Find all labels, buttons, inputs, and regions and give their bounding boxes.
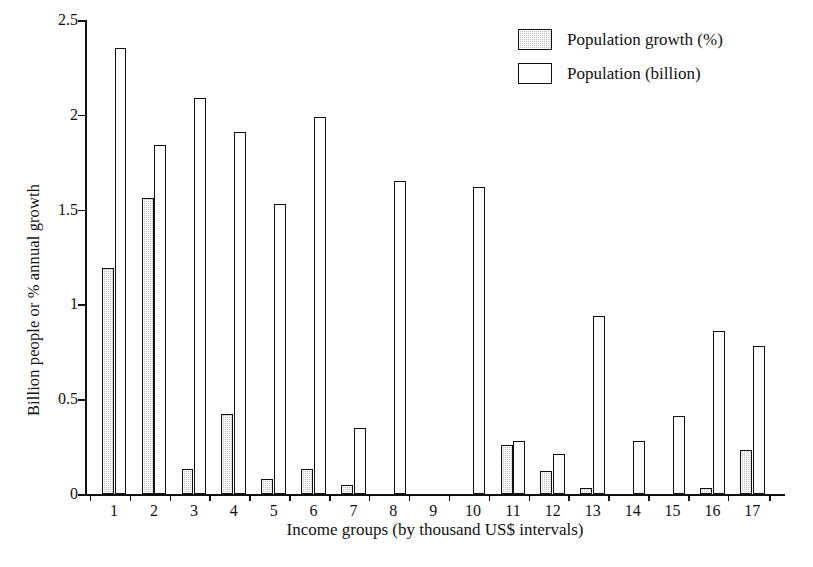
y-tick-label: 0.5 <box>32 391 78 407</box>
bar-population <box>593 316 605 494</box>
x-tick-mark <box>170 494 172 501</box>
x-tick-label: 2 <box>134 503 174 519</box>
x-tick-mark <box>369 494 371 501</box>
bar-population-growth <box>182 469 194 494</box>
bar-population <box>713 331 725 494</box>
bar-population <box>394 181 406 494</box>
x-tick-mark <box>529 494 531 501</box>
bar-population <box>314 117 326 494</box>
x-tick-mark <box>449 494 451 501</box>
legend-item[interactable]: Population growth (%) <box>518 22 798 56</box>
population-income-bar-chart: Billion people or % annual growth 00.511… <box>0 0 813 567</box>
x-tick-label: 14 <box>613 503 653 519</box>
x-tick-mark <box>608 494 610 501</box>
bar-population <box>234 132 246 494</box>
x-tick-label: 17 <box>732 503 772 519</box>
bar-population <box>194 98 206 494</box>
bar-population <box>553 454 565 494</box>
bar-population-growth <box>540 471 552 494</box>
bar-population <box>274 204 286 494</box>
x-tick-mark <box>209 494 211 501</box>
legend-item[interactable]: Population (billion) <box>518 56 798 90</box>
bar-population <box>513 441 525 494</box>
legend-swatch-population <box>518 63 552 84</box>
x-tick-label: 13 <box>573 503 613 519</box>
bar-population-growth <box>102 268 114 494</box>
legend-label: Population growth (%) <box>567 31 723 48</box>
x-tick-mark <box>489 494 491 501</box>
x-tick-label: 4 <box>214 503 254 519</box>
bar-population <box>354 428 366 494</box>
y-tick-mark <box>78 399 85 401</box>
x-tick-label: 12 <box>533 503 573 519</box>
bar-population <box>753 346 765 494</box>
x-tick-label: 10 <box>453 503 493 519</box>
x-tick-mark <box>769 494 771 501</box>
x-tick-label: 1 <box>94 503 134 519</box>
bar-population <box>633 441 645 494</box>
bar-population-growth <box>580 488 592 494</box>
y-tick-label: 0 <box>32 486 78 502</box>
x-tick-mark <box>249 494 251 501</box>
y-tick-mark <box>78 115 85 117</box>
x-tick-label: 3 <box>174 503 214 519</box>
y-tick-label: 1 <box>32 296 78 312</box>
x-tick-label: 8 <box>373 503 413 519</box>
x-tick-label: 15 <box>653 503 693 519</box>
bar-population-growth <box>142 198 154 494</box>
x-tick-mark <box>289 494 291 501</box>
x-axis-title: Income groups (by thousand US$ intervals… <box>85 520 785 540</box>
bar-population <box>115 48 127 494</box>
y-axis-line <box>85 20 87 495</box>
x-tick-label: 16 <box>692 503 732 519</box>
bar-population-growth <box>261 479 273 494</box>
x-tick-label: 9 <box>413 503 453 519</box>
y-tick-mark <box>78 210 85 212</box>
x-tick-label: 7 <box>333 503 373 519</box>
x-axis-line <box>85 494 785 496</box>
bar-population-growth <box>700 488 712 494</box>
x-tick-mark <box>568 494 570 501</box>
y-tick-label: 2.5 <box>32 12 78 28</box>
x-tick-label: 11 <box>493 503 533 519</box>
bar-population-growth <box>501 445 513 494</box>
x-tick-mark <box>409 494 411 501</box>
x-tick-label: 5 <box>254 503 294 519</box>
plot-area: 00.511.522.5 1234567891011121314151617 <box>85 20 785 494</box>
y-tick-mark <box>78 494 85 496</box>
legend-swatch-growth <box>518 29 552 50</box>
y-tick-mark <box>78 20 85 22</box>
x-tick-mark <box>648 494 650 501</box>
x-tick-mark <box>688 494 690 501</box>
bar-population-growth <box>301 469 313 494</box>
x-tick-mark <box>90 494 92 501</box>
y-tick-label: 2 <box>32 106 78 122</box>
bar-population-growth <box>221 414 233 494</box>
bar-population <box>673 416 685 494</box>
x-tick-label: 6 <box>294 503 334 519</box>
chart-legend: Population growth (%)Population (billion… <box>518 22 798 90</box>
bar-population <box>154 145 166 494</box>
x-tick-mark <box>329 494 331 501</box>
y-tick-label: 1.5 <box>32 201 78 217</box>
x-tick-mark <box>728 494 730 501</box>
y-tick-mark <box>78 304 85 306</box>
bar-population-growth <box>341 485 353 494</box>
legend-label: Population (billion) <box>567 65 701 82</box>
bar-population-growth <box>740 450 752 494</box>
x-tick-mark <box>130 494 132 501</box>
bar-population <box>473 187 485 494</box>
